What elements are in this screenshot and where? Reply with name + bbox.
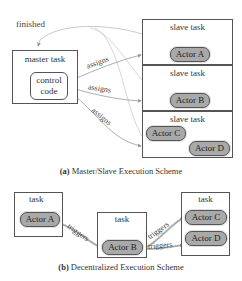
caption-a: (a) Master/Slave Execution Scheme xyxy=(0,166,242,176)
slave-task-title: slave task xyxy=(143,114,232,124)
actor-d: Actor D xyxy=(189,141,230,156)
caption-a-text: Master/Slave Execution Scheme xyxy=(72,166,182,176)
task-box-1: task Actor A xyxy=(14,192,63,237)
caption-b: (b) Decentralized Execution Scheme xyxy=(0,262,242,272)
actor-b: Actor B xyxy=(170,93,210,108)
slave-task-title: slave task xyxy=(143,22,232,32)
actor-b-b: Actor B xyxy=(102,240,143,255)
master-task-box: master task control code xyxy=(12,50,78,104)
caption-a-letter: (a) xyxy=(60,166,70,176)
finished-label: finished xyxy=(16,19,45,29)
actor-d-b: Actor D xyxy=(185,231,227,246)
control-code-line1: control xyxy=(31,75,67,86)
task-title: task xyxy=(15,194,62,204)
slave-task-box-3: slave task Actor C Actor D xyxy=(142,111,233,158)
control-code-box: control code xyxy=(30,72,68,100)
actor-c: Actor C xyxy=(146,126,186,141)
caption-b-text: Decentralized Execution Scheme xyxy=(71,262,184,272)
task-title: task xyxy=(98,214,146,224)
slave-task-box-1: slave task Actor A xyxy=(142,19,233,65)
master-task-title: master task xyxy=(13,54,77,64)
actor-c-b: Actor C xyxy=(185,210,227,225)
actor-a: Actor A xyxy=(170,47,210,62)
actor-a-b: Actor A xyxy=(20,212,60,227)
task-box-2: task Actor B xyxy=(97,212,147,258)
task-title: task xyxy=(182,194,229,204)
caption-b-letter: (b) xyxy=(58,262,68,272)
slave-task-box-2: slave task Actor B xyxy=(142,65,233,111)
task-box-3: task Actor C Actor D xyxy=(181,192,230,256)
slave-task-title: slave task xyxy=(143,68,232,78)
control-code-line2: code xyxy=(31,86,67,97)
